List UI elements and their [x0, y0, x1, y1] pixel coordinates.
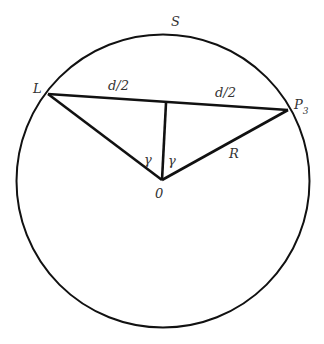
perpendicular-o-m — [162, 103, 166, 180]
label-half-chord-left: d/2 — [108, 78, 129, 93]
circle-s — [17, 35, 310, 328]
label-radius-r: R — [228, 146, 239, 161]
geometry-figure: S L d/2 d/2 P3 γ γ R 0 — [0, 0, 324, 344]
diagram-canvas: S L d/2 d/2 P3 γ γ R 0 — [0, 0, 324, 344]
label-half-chord-right: d/2 — [215, 85, 236, 100]
label-center-o: 0 — [155, 186, 163, 201]
label-circle-s: S — [171, 14, 180, 29]
label-angle-gamma-left: γ — [144, 152, 152, 167]
label-point-p-subscript: 3 — [303, 106, 309, 116]
label-point-l: L — [32, 81, 42, 96]
radius-o-p3 — [162, 110, 288, 180]
radius-l-o — [48, 94, 162, 180]
label-point-p: P3 — [293, 97, 309, 116]
label-angle-gamma-right: γ — [168, 153, 176, 168]
chord-l-p3 — [48, 94, 288, 110]
label-point-p-main: P — [293, 97, 303, 112]
